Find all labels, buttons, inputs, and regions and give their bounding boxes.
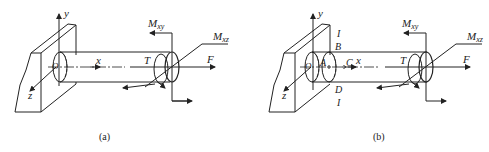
label-A: A: [319, 57, 327, 68]
torque-T-arrow: [123, 84, 155, 88]
torque-T-arrow: [377, 84, 409, 88]
caption-a: (a): [99, 131, 110, 143]
label-x: x: [95, 54, 101, 66]
label-Mxz: Mxz: [212, 30, 230, 44]
label-Mxy: Mxy: [147, 17, 165, 31]
label-y: y: [63, 7, 69, 19]
label-z: z: [27, 89, 33, 101]
label-origin: O: [52, 61, 59, 71]
label-C: C: [346, 57, 353, 68]
label-Mxy: Mxy: [401, 17, 419, 31]
label-section-I-bottom: I: [336, 97, 341, 108]
caption-b: (b): [373, 131, 385, 143]
label-z: z: [281, 89, 287, 101]
label-origin: O: [305, 61, 312, 71]
label-D: D: [334, 84, 343, 95]
fixed-wall: [269, 24, 330, 112]
label-T: T: [400, 54, 407, 66]
label-x: x: [355, 54, 361, 66]
figure-b: y x z O A B C D I I T F Mxy Mxz (b): [269, 7, 484, 143]
label-F: F: [462, 53, 470, 65]
label-y: y: [317, 7, 323, 19]
label-section-I-top: I: [336, 28, 341, 39]
shaft: [53, 52, 179, 84]
label-F: F: [206, 53, 214, 65]
diagram-canvas: y x z O T F Mxy Mxz (a): [0, 0, 489, 152]
moment-Mxz-line: [399, 44, 482, 87]
figure-a: y x z O T F Mxy Mxz (a): [15, 7, 230, 143]
label-B: B: [335, 41, 341, 52]
moment-Mxz-line: [145, 44, 228, 87]
label-Mxz: Mxz: [466, 30, 484, 44]
label-T: T: [144, 54, 151, 66]
